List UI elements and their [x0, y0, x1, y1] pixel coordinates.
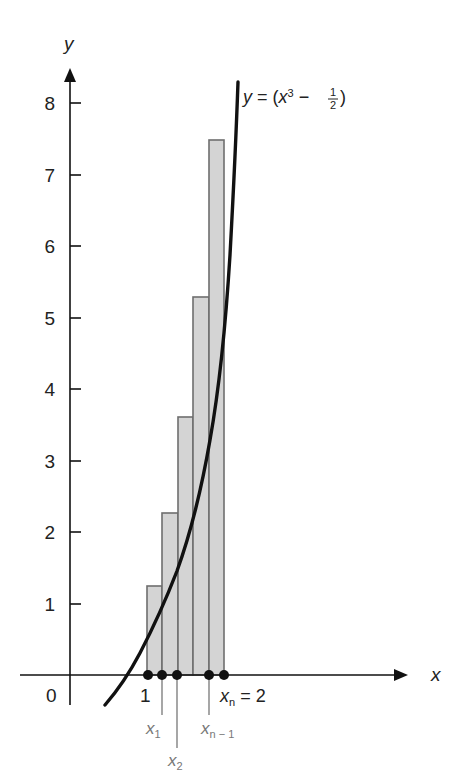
fraction-numerator: 1: [330, 86, 336, 98]
y-tick-labels: 1 2 3 4 5 6 7 8: [44, 93, 55, 615]
curve-equation: y = (x3 − 1 2 ): [241, 86, 346, 111]
xn-1-label: xn − 1: [200, 719, 234, 740]
x-start-label: 1: [140, 685, 151, 706]
bar-2: [162, 513, 178, 675]
bar-1: [147, 586, 162, 675]
riemann-bars: [147, 140, 224, 675]
x2-label: x2: [167, 751, 183, 771]
y-tick-7: 7: [44, 165, 55, 186]
svg-text:y = (x3 −: y = (x3 −: [241, 87, 309, 107]
riemann-sum-chart: 1 2 3 4 5 6 7 8 y x 0 1 xn = 2 x1 x2 xn …: [0, 0, 454, 771]
x1-label: x1: [145, 719, 161, 740]
y-tick-3: 3: [44, 451, 55, 472]
y-tick-5: 5: [44, 308, 55, 329]
y-tick-6: 6: [44, 236, 55, 257]
point-xn: [219, 670, 229, 680]
y-tick-1: 1: [44, 594, 55, 615]
y-tick-8: 8: [44, 93, 55, 114]
y-axis: [64, 68, 81, 705]
point-x1: [157, 670, 167, 680]
y-axis-arrow-icon: [64, 68, 76, 82]
fraction-denominator: 2: [330, 99, 336, 111]
point-1: [143, 670, 153, 680]
point-xn-1: [204, 670, 214, 680]
origin-label: 0: [46, 685, 57, 706]
x-axis-arrow-icon: [394, 669, 408, 681]
x-end-label: xn = 2: [219, 686, 266, 708]
point-x2: [172, 670, 182, 680]
equation-close: ): [340, 87, 346, 107]
y-axis-label: y: [62, 33, 75, 54]
y-tick-2: 2: [44, 522, 55, 543]
x-axis-label: x: [430, 664, 442, 685]
y-tick-4: 4: [44, 379, 55, 400]
